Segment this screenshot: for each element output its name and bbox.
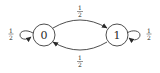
- arrow-1-to-1: [127, 31, 140, 40]
- edge-0-to-1-prob-numerator: 1: [78, 4, 82, 11]
- arrow-1-to-0: [53, 42, 107, 50]
- self-loop-0: 1 2: [9, 27, 34, 41]
- edge-1-to-0-prob-numerator: 1: [78, 54, 82, 61]
- edge-1-to-0-prob-denominator: 2: [78, 61, 82, 68]
- edge-0-to-0-prob-denominator: 2: [9, 34, 13, 41]
- edge-0-to-1: 1 2: [53, 4, 107, 28]
- state-1-label: 1: [114, 29, 121, 42]
- edge-1-to-1-prob-denominator: 2: [147, 34, 151, 41]
- edge-1-to-1-prob-numerator: 1: [147, 27, 151, 34]
- edge-0-to-1-prob-denominator: 2: [78, 11, 82, 18]
- self-loop-1: 1 2: [127, 27, 152, 41]
- edge-1-to-0: 1 2: [53, 42, 107, 68]
- state-0: 0: [33, 24, 55, 46]
- markov-chain-diagram: 1 2 1 2 1 2 1 2 0 1: [0, 0, 160, 73]
- arrow-0-to-0: [20, 31, 33, 39]
- state-0-label: 0: [41, 29, 48, 42]
- edge-0-to-0-prob-numerator: 1: [9, 27, 13, 34]
- state-1: 1: [106, 24, 128, 46]
- arrow-0-to-1: [53, 20, 107, 28]
